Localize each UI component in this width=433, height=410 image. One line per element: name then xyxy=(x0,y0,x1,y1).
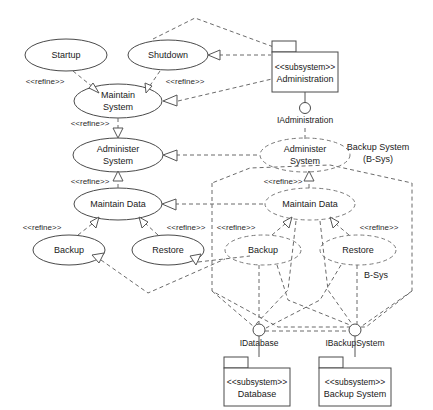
backup-system-name: Backup System xyxy=(324,389,387,399)
database-stereotype: <<subsystem>> xyxy=(227,377,288,387)
administration-name: Administration xyxy=(276,74,333,84)
refine-label-maintain-administer: <<refine>> xyxy=(71,119,110,128)
link-bsys-data-to-idatabase xyxy=(256,221,296,324)
link-bsys-backup-to-ibackupsystem xyxy=(277,265,350,325)
administration-stereotype: <<subsystem>> xyxy=(275,62,336,72)
refine-label-bsys-data-backup: <<refine>> xyxy=(217,223,256,232)
usecase-administer-system-label-2: System xyxy=(103,156,133,166)
refine-backup-data xyxy=(78,224,92,235)
refine-bsys-backup-data xyxy=(272,224,285,235)
database-package-tab xyxy=(224,357,248,368)
refine-label-bsys-data-restore: <<refine>> xyxy=(360,223,399,232)
usecase-startup-label: Startup xyxy=(51,50,80,60)
backup-system-stereotype: <<subsystem>> xyxy=(325,377,386,387)
refine-arrowhead xyxy=(90,217,99,228)
refine-arrowhead xyxy=(304,171,314,181)
refine-label-startup-maintain: <<refine>> xyxy=(26,77,65,86)
refine-bsys-restore-data xyxy=(336,224,349,235)
refine-label-data-backup: <<refine>> xyxy=(23,223,62,232)
dependency-arrowhead xyxy=(163,150,177,161)
refine-arrowhead xyxy=(330,217,339,228)
bsys-backup-label: Backup xyxy=(248,245,278,255)
usecase-shutdown-label: Shutdown xyxy=(148,50,188,60)
usecase-restore-label: Restore xyxy=(152,245,184,255)
refine-label-administer-data: <<refine>> xyxy=(71,177,110,186)
link-boundary-left-to-idatabase xyxy=(212,291,253,326)
iadministration-interface-icon[interactable] xyxy=(300,103,311,114)
backup-system-package-tab xyxy=(319,357,343,368)
link-boundary-right-to-ibackupsystem xyxy=(362,291,412,326)
uml-use-case-diagram: Startup Shutdown Maintain System Adminis… xyxy=(0,0,433,410)
bsys-restore-label: Restore xyxy=(342,245,374,255)
usecase-administer-system[interactable] xyxy=(73,138,163,172)
bsys-tag-label: B-Sys xyxy=(364,270,389,280)
bsys-boundary xyxy=(212,165,412,327)
link-bsys-restore-to-idatabase xyxy=(266,265,341,328)
bsys-maintain-data-label: Maintain Data xyxy=(282,199,338,209)
dependency-arrowhead xyxy=(208,50,220,60)
refine-label-bsys-admin-data: <<refine>> xyxy=(264,177,303,186)
database-name: Database xyxy=(238,389,277,399)
refine-arrowhead xyxy=(139,217,148,228)
iadministration-label: IAdministration xyxy=(277,115,333,125)
refine-restore-data xyxy=(146,224,158,235)
usecase-maintain-data-label: Maintain Data xyxy=(90,199,146,209)
bsys-boundary-title-2: (B-Sys) xyxy=(363,154,393,164)
refine-arrowhead xyxy=(113,171,123,181)
usecase-backup-label: Backup xyxy=(54,245,84,255)
refine-arrowhead xyxy=(283,217,292,228)
usecase-maintain-system-label-1: Maintain xyxy=(101,90,135,100)
bsys-administer-system-label-1: Administer xyxy=(284,144,327,154)
dependency-arrowhead xyxy=(163,95,177,106)
usecase-administer-system-label-1: Administer xyxy=(97,144,140,154)
refine-arrowhead xyxy=(113,128,123,138)
idatabase-interface-icon[interactable] xyxy=(253,324,265,336)
bsys-boundary-title-1: Backup System xyxy=(347,142,410,152)
refine-shutdown-maintain xyxy=(149,71,160,87)
usecase-maintain-system-label-2: System xyxy=(103,102,133,112)
dependency-arrowhead xyxy=(162,199,176,210)
diagram-canvas: Startup Shutdown Maintain System Adminis… xyxy=(0,0,433,410)
ibackupsystem-interface-icon[interactable] xyxy=(349,324,361,336)
refine-label-shutdown-maintain: <<refine>> xyxy=(166,77,205,86)
administration-package-tab xyxy=(272,41,296,52)
refine-label-data-restore: <<refine>> xyxy=(167,223,206,232)
bsys-administer-system-label-2: System xyxy=(290,156,320,166)
